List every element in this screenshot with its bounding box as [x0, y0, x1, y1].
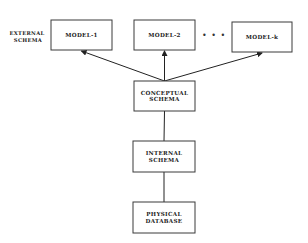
edge-conceptual-to-internal [164, 111, 165, 141]
edges [82, 51, 263, 202]
node-label: MODEL-k [246, 34, 278, 40]
node-label: INTERNALSCHEMA [146, 150, 183, 163]
node-label: MODEL-2 [148, 32, 180, 38]
node-label: PHYSICALDATABASE [146, 211, 183, 224]
nodes: MODEL-1MODEL-2MODEL-kCONCEPTUALSCHEMAINT… [51, 20, 292, 233]
node-physical: PHYSICALDATABASE [133, 202, 195, 233]
node-internal: INTERNALSCHEMA [133, 141, 195, 172]
edge-conceptual-to-modelk [165, 53, 263, 81]
external-schema-label: EXTERNAL SCHEMA [9, 30, 46, 43]
node-modelk: MODEL-k [232, 22, 292, 52]
edge-conceptual-to-model1 [82, 51, 165, 81]
ellipsis: • • • [202, 31, 226, 40]
node-model2: MODEL-2 [134, 20, 195, 50]
node-label: MODEL-1 [65, 32, 97, 38]
node-model1: MODEL-1 [51, 20, 112, 50]
schema-diagram: EXTERNAL SCHEMA MODEL-1MODEL-2MODEL-kCON… [0, 0, 308, 243]
node-conceptual: CONCEPTUALSCHEMA [134, 81, 195, 111]
